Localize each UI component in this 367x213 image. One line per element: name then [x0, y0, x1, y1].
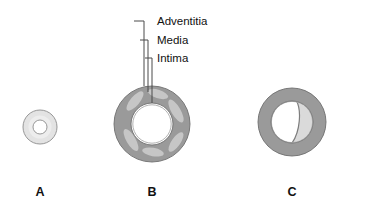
panel-b-letter: B [147, 185, 156, 199]
panel-c-letter: C [287, 185, 296, 199]
panel-a-lumen [33, 120, 47, 134]
media-label: Media [157, 34, 189, 46]
vessel-cross-section-diagram: A B [0, 0, 367, 213]
panel-b-intima-line [133, 105, 171, 143]
adventitia-label: Adventitia [157, 15, 208, 27]
panel-a-letter: A [35, 185, 44, 199]
intima-label: Intima [157, 52, 189, 64]
figure-container: A B [0, 0, 367, 213]
